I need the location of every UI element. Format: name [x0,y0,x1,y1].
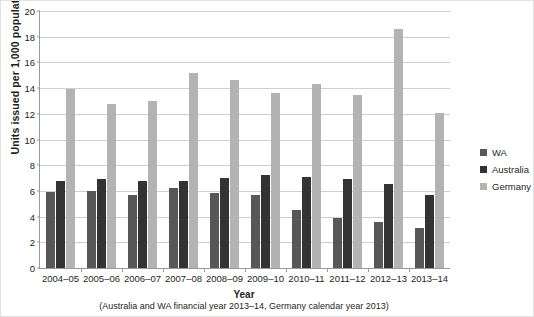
bar-germany [230,80,239,268]
bar-germany [107,104,116,268]
bar-wa [415,228,424,268]
legend-label: Germany [492,181,531,192]
bar-group [169,11,198,268]
y-tick-label: 6 [30,185,35,196]
bar-australia [56,181,65,268]
bar-australia [425,195,434,268]
bar-germany [312,84,321,268]
y-tick-label: 20 [24,6,35,17]
plot-area: 02468101214161820 2004–052005–062006–072… [39,11,450,269]
bar-australia [220,178,229,268]
y-axis-title: Units issued per 1,000 population [9,0,25,179]
bar-wa [333,218,342,268]
bar-australia [179,181,188,268]
bar-group [87,11,116,268]
x-axis-title: Year [39,289,449,300]
bar-wa [210,193,219,268]
bar-wa [128,195,137,268]
x-tick-mark [245,268,246,272]
x-tick-mark [368,268,369,272]
y-tick-label: 4 [30,211,35,222]
y-tick-label: 18 [24,31,35,42]
bar-wa [292,210,301,268]
bar-germany [435,113,444,268]
x-tick-label: 2004–05 [42,273,79,284]
bar-germany [189,73,198,268]
x-tick-mark [163,268,164,272]
bars-container [40,11,450,268]
x-tick-label: 2011–12 [329,273,365,284]
x-tick-mark [122,268,123,272]
x-tick-label: 2010–11 [288,273,324,284]
bar-group [128,11,157,268]
legend-item-wa[interactable]: WA [480,145,531,159]
x-tick-label: 2013–14 [411,273,448,284]
x-axis-note: (Australia and WA financial year 2013–14… [21,301,467,311]
y-tick-label: 16 [24,57,35,68]
x-tick-label: 2012–13 [370,273,407,284]
x-tick-label: 2006–07 [124,273,161,284]
bar-group [292,11,321,268]
x-tick-label: 2007–08 [165,273,202,284]
x-tick-mark [81,268,82,272]
bar-wa [251,195,260,268]
bar-chart-figure: Units issued per 1,000 population 024681… [0,0,534,317]
bar-germany [66,89,75,268]
bar-australia [384,184,393,268]
x-tick-mark [327,268,328,272]
x-tick-label: 2005–06 [83,273,120,284]
y-tick-label: 14 [24,83,35,94]
bar-group [333,11,362,268]
legend: WAAustraliaGermany [480,145,531,196]
bar-group [251,11,280,268]
bar-germany [394,29,403,268]
legend-label: Australia [492,164,529,175]
bar-australia [343,179,352,268]
x-tick-mark [409,268,410,272]
bar-germany [271,93,280,268]
bar-germany [353,95,362,268]
y-tick-label: 10 [24,134,35,145]
bar-wa [87,191,96,268]
legend-item-australia[interactable]: Australia [480,162,531,176]
legend-swatch-icon [480,166,487,173]
x-tick-label: 2009–10 [247,273,284,284]
bar-group [415,11,444,268]
y-tick-label: 12 [24,108,35,119]
bar-group [210,11,239,268]
y-tick-label: 0 [30,263,35,274]
bar-australia [302,177,311,268]
bar-australia [97,179,106,268]
bar-group [374,11,403,268]
bar-wa [46,192,55,268]
bar-australia [138,181,147,268]
legend-label: WA [492,147,507,158]
y-tick-label: 2 [30,237,35,248]
x-tick-mark [286,268,287,272]
legend-swatch-icon [480,149,487,156]
x-tick-label: 2008–09 [206,273,243,284]
y-tick-label: 8 [30,160,35,171]
legend-item-germany[interactable]: Germany [480,179,531,193]
bar-wa [374,222,383,268]
bar-australia [261,175,270,268]
x-tick-mark [204,268,205,272]
bar-group [46,11,75,268]
bar-germany [148,101,157,268]
legend-swatch-icon [480,183,487,190]
bar-wa [169,188,178,268]
